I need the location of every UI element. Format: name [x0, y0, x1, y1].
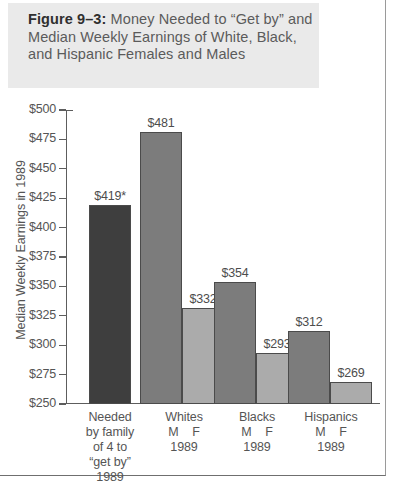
- x-axis-label-line: Hispanics: [286, 410, 376, 425]
- bar-value-hispanics-female: $269: [332, 366, 370, 380]
- y-axis-tick-label: $450: [10, 161, 56, 175]
- y-axis-tick: [59, 139, 66, 140]
- bar-blacks-male: [214, 282, 256, 404]
- y-axis-tick: [59, 315, 66, 316]
- x-axis-label-line: “get by”: [65, 455, 155, 470]
- y-axis-tick-label: $300: [10, 337, 56, 351]
- axis-right-nub: [373, 403, 380, 404]
- y-axis-tick: [59, 374, 66, 375]
- x-axis-group-label-hispanics: HispanicsM F1989: [286, 410, 376, 455]
- bar-hispanics-female: [330, 382, 372, 404]
- y-axis-tick-label: $275: [10, 367, 56, 381]
- x-axis-label-line: 1989: [65, 470, 155, 485]
- bar-needed-to-get-by-needed: [89, 205, 131, 404]
- y-axis-tick: [59, 227, 66, 228]
- y-axis-tick-label: $375: [10, 249, 56, 263]
- y-axis-tick-label: $425: [10, 190, 56, 204]
- bar-value-hispanics-male: $312: [290, 315, 328, 329]
- y-axis-tick-label: $325: [10, 308, 56, 322]
- bar-chart: Median Weekly Earnings in 1989 $500$475$…: [0, 0, 394, 485]
- y-axis-tick-label: $400: [10, 220, 56, 234]
- y-axis-tick-label: $475: [10, 131, 56, 145]
- y-axis-tick: [59, 198, 66, 199]
- y-axis-tick: [59, 256, 66, 257]
- bar-whites-male: [140, 132, 182, 404]
- y-axis-tick: [59, 168, 66, 169]
- axis-top-nub: [66, 110, 73, 111]
- x-axis-label-line: 1989: [286, 440, 376, 455]
- y-axis-tick: [59, 403, 66, 404]
- y-axis-tick: [59, 109, 66, 110]
- y-axis-tick: [59, 286, 66, 287]
- y-axis-tick-label: $500: [10, 102, 56, 116]
- y-axis-tick: [59, 345, 66, 346]
- bar-hispanics-male: [288, 331, 330, 404]
- y-axis-tick-label: $350: [10, 278, 56, 292]
- y-axis-tick-label: $250: [10, 396, 56, 410]
- bar-value-whites-male: $481: [142, 116, 180, 130]
- x-axis-label-line: M F: [286, 425, 376, 440]
- bar-value-blacks-male: $354: [216, 266, 254, 280]
- bar-value-needed-to-get-by-needed: $419*: [91, 189, 129, 203]
